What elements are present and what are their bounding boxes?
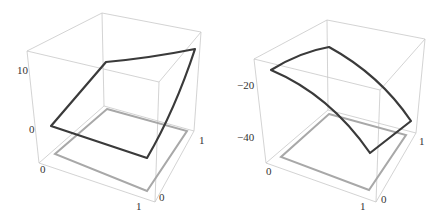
left-y-tick-1: 1	[199, 134, 205, 146]
left-z-tick-10: 10	[17, 64, 29, 76]
left-z-tick-0: 0	[29, 123, 35, 135]
left-x-tick-1: 1	[136, 200, 142, 212]
right-z-tick-minus40: −40	[237, 131, 255, 143]
plot-canvas: 10 0 0 1 0 1 −20 −40 0 1 0 1	[0, 0, 444, 223]
right-axis-labels: −20 −40 0 1 0 1	[237, 79, 425, 212]
right-z-tick-minus20: −20	[237, 79, 255, 91]
right-x-tick-0: 0	[266, 165, 272, 177]
left-bounding-box	[27, 13, 201, 202]
left-axis-labels: 10 0 0 1 0 1	[17, 64, 205, 212]
right-bounding-box	[254, 20, 425, 202]
right-surface-boundary	[271, 47, 411, 153]
left-3d-plot: 10 0 0 1 0 1	[17, 13, 205, 212]
right-3d-plot: −20 −40 0 1 0 1	[237, 20, 425, 212]
right-y-tick-1: 1	[419, 135, 425, 147]
left-x-tick-0: 0	[40, 163, 46, 175]
right-y-tick-0: 0	[381, 193, 387, 205]
right-x-tick-1: 1	[360, 200, 366, 212]
left-y-tick-0: 0	[159, 191, 165, 203]
